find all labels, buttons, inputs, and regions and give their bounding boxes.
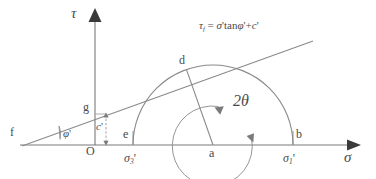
point-label-f: f [10,126,14,138]
point-label-g: g [83,101,89,113]
sigma3-prime-mark: ' [134,151,136,165]
mohr-circle-diagram: τ σ O τf = σ'tanφ'+c' f g d a e b φ' c' … [0,0,376,179]
two-theta-label: 2θ [233,93,249,109]
sigma-axis-label: σ [344,150,351,165]
point-label-b: b [296,128,302,140]
sigma3-prime-label: σ3' [124,152,136,166]
point-label-a: a [209,147,214,159]
radius-line-a-d [187,70,214,145]
equation-c-prime: ' [257,19,259,31]
sigma1-prime-label: σ1' [283,152,295,166]
phi-prime-label: φ' [63,128,71,139]
two-theta-arrow-end [247,133,254,142]
equation-equals: = [208,19,214,31]
point-label-e: e [123,128,128,140]
diagram-canvas [0,0,376,179]
equation-tau-subscript: f [203,25,205,32]
sigma1-prime-mark: ' [293,151,295,165]
two-theta-arrow-start [215,106,224,115]
tau-axis-label: τ [71,6,76,21]
phi-prime-mark: ' [69,127,71,139]
c-prime-label: c' [96,121,103,132]
c-prime-mark: ' [101,120,103,132]
origin-label: O [86,145,95,157]
equation-tan: tan [224,19,237,31]
tau-axis-arrowhead [89,8,102,22]
point-label-d: d [179,54,185,66]
failure-envelope-equation: τf = σ'tanφ'+c' [199,20,259,33]
